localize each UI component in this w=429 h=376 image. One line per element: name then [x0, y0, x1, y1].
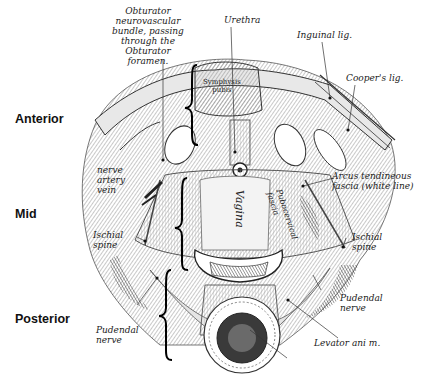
region-label-posterior: Posterior — [15, 312, 70, 326]
label-urethra: Urethra — [224, 15, 260, 25]
pelvic-floor-figure: Anterior Mid Posterior Obturator neurova… — [0, 0, 429, 376]
label-obturator-bundle: Obturator neurovascular bundle, passing … — [112, 6, 184, 66]
label-arcus-tendineous: Arcus tendineous fascia (white line) — [332, 171, 414, 191]
urethra — [230, 120, 250, 165]
label-coopers-ligament: Cooper's lig. — [346, 73, 403, 83]
region-label-mid: Mid — [15, 207, 37, 221]
label-ischial-spine-right: Ischial spine — [352, 232, 382, 252]
label-vagina: Vagina — [234, 190, 244, 228]
label-pudendal-nerve-right: Pudendal nerve — [340, 293, 383, 313]
label-inguinal-ligament: Inguinal lig. — [297, 30, 352, 40]
label-ischial-spine-left: Ischial spine — [93, 230, 123, 250]
region-label-anterior: Anterior — [15, 112, 64, 126]
label-nerve-artery-vein: nerve artery vein — [97, 165, 125, 195]
label-pudendal-nerve-left: Pudendal nerve — [96, 325, 139, 345]
label-levator-ani: Levator ani m. — [314, 338, 380, 348]
label-symphysis-pubis: Symphysis pubis — [203, 78, 241, 94]
